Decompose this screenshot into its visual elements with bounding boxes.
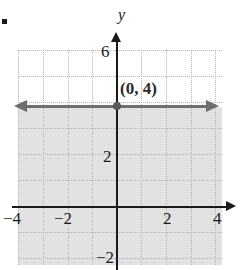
boundary-line-arrow-left-icon: [14, 100, 27, 112]
gridline-horizontal: [18, 258, 222, 259]
x-tick-label-2: 2: [163, 209, 172, 229]
y-tick-label-6: 6: [101, 42, 110, 62]
x-axis: [12, 206, 232, 208]
y-tick-label-2: 2: [103, 147, 112, 167]
bullet-marker: [2, 19, 7, 24]
x-tick-label-minus-2: −2: [54, 209, 72, 229]
gridline-horizontal: [18, 232, 222, 233]
gridline-horizontal: [18, 50, 222, 51]
point-marker: [113, 102, 121, 110]
boundary-line-arrow-right-icon: [206, 100, 219, 112]
y-axis-arrow-icon: [111, 32, 121, 42]
gridline-horizontal: [18, 154, 222, 155]
gridline-horizontal: [18, 180, 222, 181]
graph-figure: y 6 2 −2 −4 −2 2 4 (0, 4): [0, 0, 247, 270]
gridline-horizontal: [18, 76, 222, 77]
y-axis: [116, 42, 118, 270]
gridline-horizontal: [18, 128, 222, 129]
y-axis-label: y: [118, 6, 125, 24]
x-tick-label-4: 4: [213, 209, 222, 229]
x-tick-label-minus-4: −4: [3, 209, 21, 229]
y-tick-label-minus-2: −2: [96, 248, 114, 268]
point-coordinate-label: (0, 4): [120, 79, 157, 99]
x-axis-arrow-icon: [226, 201, 236, 211]
